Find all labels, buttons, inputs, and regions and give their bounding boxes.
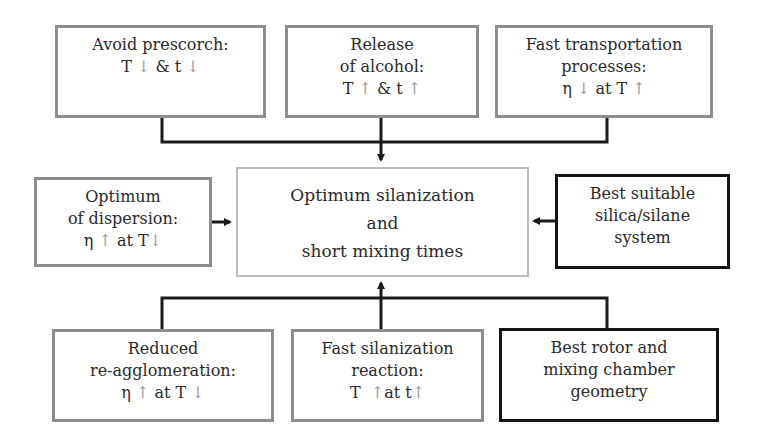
arrow-down-icon: ↓ xyxy=(577,79,590,98)
bottom-connector xyxy=(162,298,607,330)
arrow-up-icon: ↑ xyxy=(371,383,384,402)
arrow-up-icon: ↑ xyxy=(408,79,421,98)
arrow-up-icon: ↑ xyxy=(632,79,645,98)
box-label: system xyxy=(614,227,671,249)
formula: T ↑at t↑ xyxy=(350,382,425,404)
box-label: Best suitable xyxy=(590,183,695,205)
box-label: reaction: xyxy=(351,360,424,382)
box-center-optimum-silanization: Optimum silanization and short mixing ti… xyxy=(236,167,529,277)
formula-var: η xyxy=(121,383,131,402)
arrow-up-icon: ↑ xyxy=(412,383,425,402)
center-title: short mixing times xyxy=(302,237,463,265)
formula-text: & t xyxy=(372,79,408,98)
box-label: Optimum xyxy=(85,186,161,208)
arrow-down-icon: ↓ xyxy=(191,383,204,402)
arrow-up-icon: ↑ xyxy=(359,79,372,98)
box-label: of alcohol: xyxy=(340,56,424,78)
arrow-down-icon: ↓ xyxy=(149,231,162,250)
arrow-up-icon: ↑ xyxy=(136,383,149,402)
box-release-of-alcohol: Release of alcohol: T ↑ & t ↑ xyxy=(285,25,479,118)
formula-var: η xyxy=(84,231,94,250)
box-label: of dispersion: xyxy=(68,208,178,230)
formula: T ↓ & t ↓ xyxy=(121,56,200,78)
box-reduced-reagglomeration: Reduced re-agglomeration: η ↑ at T ↓ xyxy=(52,329,274,422)
formula-var: T xyxy=(350,383,371,402)
box-fast-silanization-reaction: Fast silanization reaction: T ↑at t↑ xyxy=(291,329,484,422)
top-connector xyxy=(162,117,607,142)
box-label: Release xyxy=(350,34,413,56)
box-label: silica/silane xyxy=(595,205,690,227)
formula-text: & t xyxy=(150,57,186,76)
formula: T ↑ & t ↑ xyxy=(343,78,422,100)
box-optimum-dispersion: Optimum of dispersion: η ↑ at T↓ xyxy=(34,177,212,267)
box-avoid-prescorch: Avoid prescorch: T ↓ & t ↓ xyxy=(55,25,266,118)
formula-var: η xyxy=(562,79,572,98)
box-label: Fast transportation xyxy=(526,34,682,56)
formula-text: at T xyxy=(149,383,191,402)
formula-text: at T xyxy=(590,79,632,98)
formula: η ↓ at T ↑ xyxy=(562,78,645,100)
box-fast-transportation: Fast transportation processes: η ↓ at T … xyxy=(495,25,713,118)
box-label: Avoid prescorch: xyxy=(92,34,229,56)
center-title: Optimum silanization xyxy=(290,181,474,209)
box-label: re-agglomeration: xyxy=(90,360,236,382)
arrow-down-icon: ↓ xyxy=(137,57,150,76)
box-label: geometry xyxy=(570,381,647,403)
arrow-down-icon: ↓ xyxy=(186,57,199,76)
formula-text: at t xyxy=(384,383,411,402)
box-label: Best rotor and xyxy=(550,337,667,359)
box-best-silica-silane: Best suitable silica/silane system xyxy=(555,174,730,269)
formula-var: T xyxy=(121,57,132,76)
box-label: processes: xyxy=(561,56,646,78)
arrow-up-icon: ↑ xyxy=(99,231,112,250)
box-best-rotor-geometry: Best rotor and mixing chamber geometry xyxy=(499,328,719,422)
formula: η ↑ at T↓ xyxy=(84,230,162,252)
box-label: Reduced xyxy=(128,338,199,360)
box-label: mixing chamber xyxy=(543,359,674,381)
formula-text: at T xyxy=(112,231,149,250)
box-label: Fast silanization xyxy=(321,338,453,360)
formula-var: T xyxy=(343,79,354,98)
formula: η ↑ at T ↓ xyxy=(121,382,204,404)
center-title: and xyxy=(367,209,399,237)
